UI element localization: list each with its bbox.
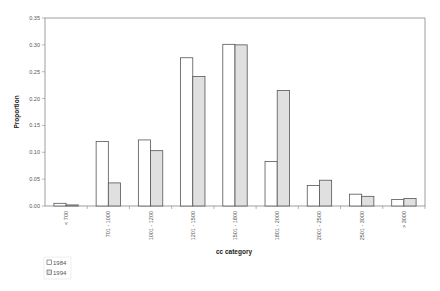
bar-1994-5 bbox=[277, 91, 289, 206]
bar-series bbox=[54, 44, 416, 206]
legend-swatch-1994 bbox=[47, 270, 52, 275]
bar-1984-0 bbox=[54, 203, 66, 206]
bar-1984-2 bbox=[138, 140, 150, 206]
y-tick-label: 0.00 bbox=[29, 203, 40, 209]
y-tick-label: 0.25 bbox=[29, 69, 40, 75]
x-tick-label: < 700 bbox=[63, 211, 69, 225]
legend-label: 1994 bbox=[53, 270, 67, 276]
bar-1984-7 bbox=[349, 194, 361, 206]
y-tick-label: 0.05 bbox=[29, 176, 40, 182]
bar-chart: 0.000.050.100.150.200.250.300.35 < 70070… bbox=[0, 0, 440, 291]
legend: 19841994 bbox=[44, 257, 71, 279]
bar-1994-4 bbox=[235, 45, 247, 206]
x-tick-label: 1201 - 1500 bbox=[190, 211, 196, 240]
x-axis-title: cc category bbox=[216, 248, 253, 256]
x-tick-label: 701 - 1000 bbox=[105, 211, 111, 237]
y-tick-label: 0.35 bbox=[29, 15, 40, 21]
bar-1994-8 bbox=[404, 198, 416, 206]
bar-1984-6 bbox=[307, 186, 319, 206]
x-tick-label: 1801 - 2000 bbox=[274, 211, 280, 240]
x-tick-label: > 3000 bbox=[401, 211, 407, 228]
x-axis: < 700701 - 10001001 - 12001201 - 1500150… bbox=[63, 206, 425, 240]
bar-1984-4 bbox=[223, 44, 235, 206]
y-tick-label: 0.30 bbox=[29, 42, 40, 48]
bar-1994-7 bbox=[362, 196, 374, 206]
legend-label: 1984 bbox=[53, 260, 67, 266]
y-axis: 0.000.050.100.150.200.250.300.35 bbox=[29, 15, 45, 209]
legend-swatch-1984 bbox=[47, 260, 52, 265]
x-tick-label: 1001 - 1200 bbox=[148, 211, 154, 240]
y-tick-label: 0.20 bbox=[29, 96, 40, 102]
bar-1994-2 bbox=[151, 151, 163, 206]
bar-1984-1 bbox=[96, 142, 108, 206]
x-tick-label: 2001 - 2500 bbox=[316, 211, 322, 240]
bar-1994-3 bbox=[193, 77, 205, 206]
bar-1994-1 bbox=[108, 183, 120, 206]
bar-1994-0 bbox=[66, 205, 78, 206]
bar-1994-6 bbox=[319, 180, 331, 206]
bar-1984-5 bbox=[265, 161, 277, 206]
bar-1984-8 bbox=[392, 200, 404, 206]
y-axis-title: Proportion bbox=[13, 95, 21, 128]
x-tick-label: 2501 - 3000 bbox=[359, 211, 365, 240]
y-tick-label: 0.15 bbox=[29, 122, 40, 128]
y-tick-label: 0.10 bbox=[29, 149, 40, 155]
x-tick-label: 1501 - 1800 bbox=[232, 211, 238, 240]
bar-1984-3 bbox=[181, 58, 193, 206]
